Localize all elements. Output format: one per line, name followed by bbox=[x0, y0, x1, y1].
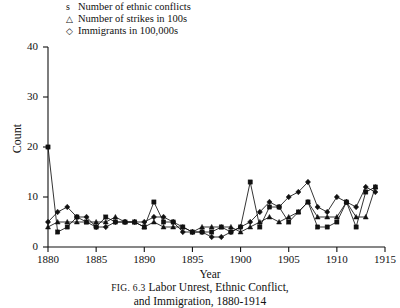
data-series-layer bbox=[45, 145, 378, 240]
data-point bbox=[267, 214, 272, 219]
x-tick-label: 1890 bbox=[124, 253, 164, 265]
data-point bbox=[354, 225, 358, 229]
y-tick-label: 30 bbox=[16, 90, 38, 102]
figure-number: FIG. 6.3 bbox=[111, 283, 145, 293]
data-point bbox=[354, 204, 359, 210]
x-tick-label: 1900 bbox=[221, 253, 261, 265]
data-point bbox=[363, 184, 368, 190]
y-tick-label: 40 bbox=[16, 40, 38, 52]
data-point bbox=[151, 214, 156, 220]
y-tick-label: 0 bbox=[16, 240, 38, 252]
data-point bbox=[315, 204, 320, 210]
data-point bbox=[103, 224, 108, 230]
data-point bbox=[316, 225, 320, 229]
x-tick-label: 1910 bbox=[317, 253, 357, 265]
data-point bbox=[219, 234, 224, 240]
figure-caption: FIG. 6.3 Labor Unrest, Ethnic Conflict, … bbox=[0, 281, 400, 308]
x-tick-label: 1880 bbox=[28, 253, 68, 265]
y-axis-label: Count bbox=[10, 109, 25, 169]
data-point bbox=[325, 225, 329, 229]
data-point bbox=[258, 225, 262, 229]
data-point bbox=[335, 220, 339, 224]
data-point bbox=[334, 194, 339, 200]
x-axis-ticks bbox=[48, 247, 385, 252]
caption-title-line1: Labor Unrest, Ethnic Conflict, bbox=[149, 281, 289, 293]
data-point bbox=[286, 214, 291, 219]
x-tick-label: 1915 bbox=[365, 253, 400, 265]
data-point bbox=[277, 219, 282, 224]
x-tick-label: 1905 bbox=[269, 253, 309, 265]
x-tick-label: 1895 bbox=[172, 253, 212, 265]
caption-line-2: and Immigration, 1880-1914 bbox=[0, 295, 400, 308]
data-point bbox=[267, 205, 271, 209]
data-point bbox=[104, 215, 108, 219]
data-point bbox=[287, 220, 291, 224]
data-point bbox=[152, 200, 156, 204]
x-tick-label: 1885 bbox=[76, 253, 116, 265]
y-tick-label: 10 bbox=[16, 190, 38, 202]
data-point bbox=[161, 220, 165, 224]
data-point bbox=[113, 214, 118, 219]
data-point bbox=[65, 225, 69, 229]
data-point bbox=[46, 145, 50, 149]
x-axis-label: Year bbox=[180, 268, 240, 280]
caption-line-1: FIG. 6.3 Labor Unrest, Ethnic Conflict, bbox=[0, 281, 400, 295]
data-point bbox=[248, 180, 252, 184]
data-point bbox=[325, 209, 330, 215]
data-point bbox=[56, 230, 60, 234]
data-point bbox=[209, 234, 214, 240]
data-point bbox=[210, 230, 214, 234]
data-point bbox=[142, 219, 147, 225]
